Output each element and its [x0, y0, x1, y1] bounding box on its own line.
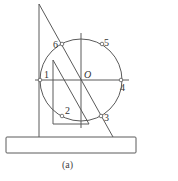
point-4-label: 4 [120, 82, 125, 93]
point-6-label: 6 [53, 39, 58, 50]
geometry-diagram: 1 2 3 4 5 6 O (a) [0, 0, 178, 181]
point-2-label: 2 [65, 105, 70, 116]
point-6-marker [60, 42, 64, 46]
point-1-marker [38, 78, 42, 82]
figure-caption: (a) [62, 159, 73, 171]
point-5-label: 5 [104, 37, 109, 48]
base-ruler [6, 137, 136, 153]
point-1-label: 1 [44, 69, 49, 80]
point-3-marker [99, 114, 103, 118]
center-label: O [84, 69, 91, 80]
point-2-marker [60, 114, 64, 118]
point-3-label: 3 [104, 112, 109, 123]
